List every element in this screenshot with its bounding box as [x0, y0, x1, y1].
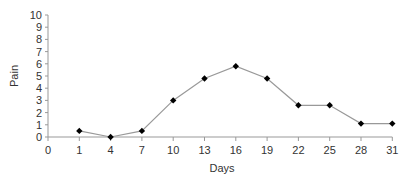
data-point-marker — [358, 120, 364, 126]
y-tick-label: 4 — [36, 82, 42, 94]
y-tick-label: 10 — [30, 9, 42, 21]
x-tick-label: 7 — [139, 144, 145, 156]
x-tick-label: 25 — [324, 144, 336, 156]
x-tick-label: 4 — [108, 144, 114, 156]
data-point-marker — [389, 120, 395, 126]
y-tick-label: 6 — [36, 58, 42, 70]
x-tick-label: 0 — [45, 144, 51, 156]
data-point-marker — [107, 134, 113, 140]
x-tick-label: 13 — [198, 144, 210, 156]
y-tick-label: 1 — [36, 119, 42, 131]
x-tick-label: 1 — [76, 144, 82, 156]
x-tick-label: 10 — [167, 144, 179, 156]
x-tick-label: 22 — [292, 144, 304, 156]
y-axis-label: Pain — [8, 65, 20, 87]
y-tick-label: 2 — [36, 107, 42, 119]
y-tick-label: 7 — [36, 46, 42, 58]
data-point-marker — [327, 102, 333, 108]
data-series — [76, 63, 395, 140]
x-tick-label: 19 — [261, 144, 273, 156]
x-tick-label: 31 — [386, 144, 398, 156]
x-axis-label: Days — [209, 162, 235, 174]
y-tick-label: 3 — [36, 94, 42, 106]
data-point-marker — [76, 128, 82, 134]
y-axis: 012345678910 — [30, 9, 48, 143]
x-axis: 01471013161922252831 — [45, 137, 398, 156]
pain-line-chart: 012345678910 01471013161922252831 Pain D… — [0, 0, 409, 182]
series-line — [79, 66, 392, 137]
y-tick-label: 9 — [36, 21, 42, 33]
chart-canvas: 012345678910 01471013161922252831 Pain D… — [0, 0, 409, 182]
y-tick-label: 5 — [36, 70, 42, 82]
y-tick-label: 8 — [36, 33, 42, 45]
y-tick-label: 0 — [36, 131, 42, 143]
data-point-marker — [233, 63, 239, 69]
x-tick-label: 16 — [230, 144, 242, 156]
x-tick-label: 28 — [355, 144, 367, 156]
